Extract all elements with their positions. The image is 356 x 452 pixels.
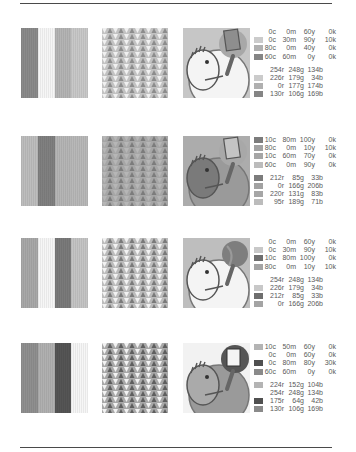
cmyk-m-value: 30m — [282, 36, 296, 44]
cmyk-row: 0c30m90y10k — [254, 246, 336, 254]
rgb-b-value: 104b — [307, 381, 323, 389]
rgb-b-value: 206b — [307, 300, 323, 308]
cmyk-row: 60c0m90y0k — [254, 161, 336, 169]
rgb-b-value: 33b — [311, 174, 323, 182]
color-swatch — [254, 352, 263, 358]
color-swatch — [254, 301, 263, 307]
color-stripe — [21, 343, 38, 413]
color-swatch — [254, 199, 263, 205]
palette-row-2: 10c80m100y0k80c0m10y10k10c60m70y0k60c0m9… — [0, 136, 356, 216]
cmyk-row: 80c0m10y10k — [254, 144, 336, 152]
cmyk-y-value: 0y — [308, 368, 315, 376]
color-swatch — [254, 255, 263, 261]
triangle-pattern — [102, 343, 168, 413]
rgb-row: 175r64g42b — [254, 397, 336, 405]
bottom-rule — [20, 447, 332, 448]
cmyk-m-value: 0m — [286, 263, 296, 271]
rgb-row: 254r248g134b — [254, 389, 336, 397]
cmyk-c-value: 60c — [265, 53, 276, 61]
rgb-g-value: 85g — [292, 292, 304, 300]
color-swatch — [254, 277, 263, 283]
rgb-b-value: 83b — [311, 190, 323, 198]
cmyk-m-value: 80m — [282, 359, 296, 367]
rgb-r-value: 95r — [274, 198, 284, 206]
rgb-r-value: 224r — [270, 381, 284, 389]
rgb-g-value: 248g — [288, 276, 304, 284]
rgb-b-value: 34b — [311, 74, 323, 82]
color-swatch — [254, 191, 263, 197]
color-legend: 10c80m100y0k80c0m10y10k10c60m70y0k60c0m9… — [254, 136, 336, 208]
rgb-b-value: 33b — [311, 292, 323, 300]
mascot-illustration — [183, 28, 250, 98]
cmyk-k-value: 10k — [325, 246, 336, 254]
color-stripe — [71, 238, 88, 308]
cmyk-y-value: 90y — [304, 36, 315, 44]
cmyk-k-value: 10k — [325, 144, 336, 152]
color-swatch — [254, 285, 263, 291]
color-legend: 10c50m60y0k0c0m60y0k0c80m80y30k60c60m0y0… — [254, 343, 336, 415]
rgb-g-value: 131g — [288, 190, 304, 198]
rgb-b-value: 42b — [311, 397, 323, 405]
cmyk-y-value: 10y — [304, 263, 315, 271]
rgb-g-value: 64g — [292, 397, 304, 405]
color-stripes — [21, 136, 88, 206]
color-swatch — [254, 406, 263, 412]
rgb-r-value: 254r — [270, 276, 284, 284]
rgb-row: 0r166g206b — [254, 182, 336, 190]
cmyk-y-value: 60y — [304, 351, 315, 359]
color-swatch — [254, 369, 263, 375]
rgb-g-value: 179g — [288, 284, 304, 292]
rgb-row: 212r85g33b — [254, 174, 336, 182]
rgb-row: 226r179g34b — [254, 74, 336, 82]
cmyk-k-value: 0k — [329, 351, 336, 359]
color-swatch — [254, 67, 263, 73]
color-stripe — [55, 343, 72, 413]
palette-row-3: 0c0m60y0k0c30m90y10k10c80m100y0k80c0m10y… — [0, 238, 356, 318]
rgb-row: 130r106g169b — [254, 90, 336, 98]
cmyk-c-value: 0c — [269, 238, 276, 246]
triangle-pattern — [102, 238, 168, 308]
color-stripe — [38, 28, 55, 98]
rgb-row: 130r106g169b — [254, 405, 336, 413]
top-rule — [20, 3, 332, 4]
color-swatch — [254, 83, 263, 89]
color-stripe — [71, 28, 88, 98]
color-stripe — [71, 136, 88, 206]
rgb-r-value: 226r — [270, 284, 284, 292]
cmyk-m-value: 0m — [286, 238, 296, 246]
cmyk-k-value: 30k — [325, 359, 336, 367]
rgb-g-value: 179g — [288, 74, 304, 82]
rgb-g-value: 166g — [288, 300, 304, 308]
rgb-row: 0r177g174b — [254, 82, 336, 90]
color-stripe — [38, 238, 55, 308]
cmyk-c-value: 0c — [269, 359, 276, 367]
rgb-g-value: 248g — [288, 66, 304, 74]
color-swatch — [254, 75, 263, 81]
color-swatch — [254, 239, 263, 245]
mascot-illustration — [183, 343, 250, 413]
cmyk-k-value: 0k — [329, 53, 336, 61]
color-stripe — [71, 343, 88, 413]
cmyk-row: 0c0m60y0k — [254, 28, 336, 36]
cmyk-row: 60c60m0y0k — [254, 368, 336, 376]
rgb-row: 224r152g104b — [254, 381, 336, 389]
cmyk-k-value: 10k — [325, 36, 336, 44]
cmyk-y-value: 70y — [304, 152, 315, 160]
color-legend: 0c0m60y0k0c30m90y10k10c80m100y0k80c0m10y… — [254, 238, 336, 310]
cmyk-c-value: 0c — [269, 351, 276, 359]
cmyk-k-value: 0k — [329, 254, 336, 262]
rgb-row: 254r248g134b — [254, 66, 336, 74]
rgb-b-value: 169b — [307, 405, 323, 413]
cmyk-m-value: 60m — [282, 152, 296, 160]
cmyk-row: 0c30m90y10k — [254, 36, 336, 44]
cmyk-m-value: 30m — [282, 246, 296, 254]
cmyk-y-value: 100y — [300, 136, 315, 144]
cmyk-m-value: 0m — [286, 44, 296, 52]
cmyk-y-value: 10y — [304, 144, 315, 152]
cmyk-k-value: 0k — [329, 238, 336, 246]
cmyk-row: 0c0m60y0k — [254, 238, 336, 246]
color-stripe — [55, 238, 72, 308]
color-stripe — [38, 136, 55, 206]
cmyk-m-value: 0m — [286, 144, 296, 152]
cmyk-row: 10c60m70y0k — [254, 152, 336, 160]
